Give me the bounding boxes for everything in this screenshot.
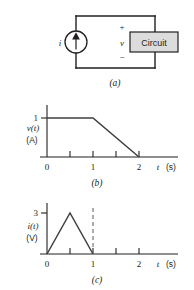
x-axis-unit-c: (s) — [166, 259, 176, 269]
polarity-minus: − — [119, 52, 124, 62]
panel-b-plot: 1 v(t) (A) 0 1 2 t (s) (b) — [0, 95, 194, 193]
y-tick-label-b-1: 1 — [34, 113, 39, 123]
x-tick-label-c-2: 2 — [137, 259, 142, 269]
circuit-diagram: i + v − Circuit (a) — [0, 0, 194, 95]
x-axis-name-b: t — [157, 162, 160, 172]
x-axis-name-c: t — [157, 259, 160, 269]
figure-root: i + v − Circuit (a) — [0, 0, 194, 290]
y-axis-unit-b: (A) — [26, 135, 38, 145]
x-tick-label-b-1: 1 — [91, 162, 96, 172]
panel-c-plot: 3 i(t) (V) 0 1 2 t (s) (c) — [0, 193, 194, 290]
y-axis-unit-c: (V) — [26, 233, 38, 243]
x-tick-label-b-0: 0 — [45, 162, 50, 172]
waveform-c: 3 i(t) (V) 0 1 2 t (s) (c) — [0, 193, 194, 290]
panel-a-circuit: i + v − Circuit (a) — [0, 0, 194, 95]
trace-c-it — [47, 213, 93, 254]
panel-b-caption: (b) — [91, 178, 102, 189]
current-source-label: i — [59, 38, 62, 48]
circuit-block-label: Circuit — [141, 38, 167, 48]
x-tick-label-c-1: 1 — [91, 259, 96, 269]
x-tick-label-c-0: 0 — [45, 259, 50, 269]
polarity-plus: + — [119, 22, 124, 32]
panel-a-caption: (a) — [109, 78, 120, 89]
panel-c-caption: (c) — [92, 275, 103, 286]
y-axis-name-b: v(t) — [27, 123, 40, 133]
waveform-b: 1 v(t) (A) 0 1 2 t (s) (b) — [0, 95, 194, 193]
y-tick-label-c-3: 3 — [34, 208, 39, 218]
y-axis-name-c: i(t) — [28, 221, 39, 231]
voltage-label: v — [120, 38, 124, 48]
x-tick-label-b-2: 2 — [137, 162, 142, 172]
x-axis-unit-b: (s) — [166, 162, 176, 172]
